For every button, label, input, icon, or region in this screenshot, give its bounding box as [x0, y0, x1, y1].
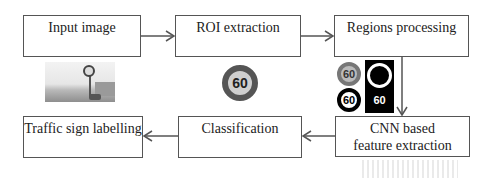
- node-label: Input image: [48, 20, 115, 35]
- roi-speed-sign-icon: 60: [222, 65, 258, 101]
- car: [89, 94, 101, 100]
- node-traffic-sign-labelling: Traffic sign labelling: [23, 116, 143, 158]
- node-input-image: Input image: [23, 15, 141, 57]
- input-street-photo: [45, 62, 115, 102]
- node-cnn-feature-extraction: CNN based feature extraction: [335, 116, 470, 157]
- node-classification: Classification: [178, 116, 302, 158]
- node-label: Classification: [202, 121, 279, 136]
- node-regions-processing: Regions processing: [334, 15, 469, 57]
- speed-sign-icon: [83, 65, 95, 77]
- region-gray-sign-icon: 60: [337, 62, 361, 86]
- node-label-line1: CNN based: [336, 120, 469, 137]
- inverted-sign-text: 60: [365, 94, 394, 106]
- node-label: ROI extraction: [196, 20, 280, 35]
- node-label: Regions processing: [347, 20, 456, 35]
- region-inverted-panel: 60: [365, 60, 394, 113]
- region-binary-sign-icon: 60: [337, 88, 361, 112]
- node-label: Traffic sign labelling: [24, 121, 141, 136]
- inverted-ring-icon: [367, 63, 392, 88]
- node-label-line2: feature extraction: [336, 137, 469, 154]
- node-roi-extraction: ROI extraction: [175, 15, 301, 57]
- watermark: [362, 160, 458, 178]
